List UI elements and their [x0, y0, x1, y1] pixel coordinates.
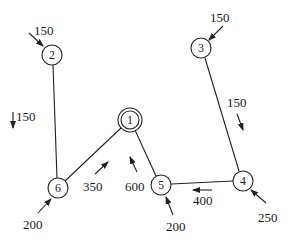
edge-1-5 — [135, 130, 156, 176]
edge-6-1 — [65, 128, 121, 181]
flow-label-node-3: 150 — [210, 11, 230, 24]
flow-label-node-5: 200 — [166, 220, 186, 233]
flow-label-node-4: 250 — [258, 211, 278, 224]
node-label: 6 — [48, 182, 68, 194]
arrow-into-4 — [251, 190, 266, 203]
flow-label-edge-4-5: 400 — [193, 194, 213, 207]
edge-2-6 — [53, 65, 57, 178]
flow-label-node-6: 200 — [23, 218, 43, 231]
node-label: 1 — [120, 114, 140, 126]
arrow-into-5 — [166, 197, 173, 215]
arrow-flow-3-4 — [237, 114, 243, 130]
node-label: 2 — [42, 49, 62, 61]
arrow-into-6 — [38, 199, 51, 213]
flow-label-edge-2-6: 150 — [16, 110, 36, 123]
arrow-flow-6-1 — [95, 162, 108, 174]
flow-label-edge-6-1: 350 — [83, 180, 103, 193]
node-label: 3 — [191, 42, 211, 54]
flow-label-node-2: 150 — [34, 24, 54, 37]
flow-label-edge-5-1: 600 — [125, 180, 145, 193]
node-label: 5 — [151, 179, 171, 191]
flow-label-edge-3-4: 150 — [227, 96, 247, 109]
arrow-into-3 — [209, 26, 223, 40]
edge-5-4 — [171, 181, 233, 184]
node-label: 4 — [233, 175, 253, 187]
arrow-flow-5-1 — [130, 157, 137, 172]
edge-3-4 — [205, 58, 239, 171]
